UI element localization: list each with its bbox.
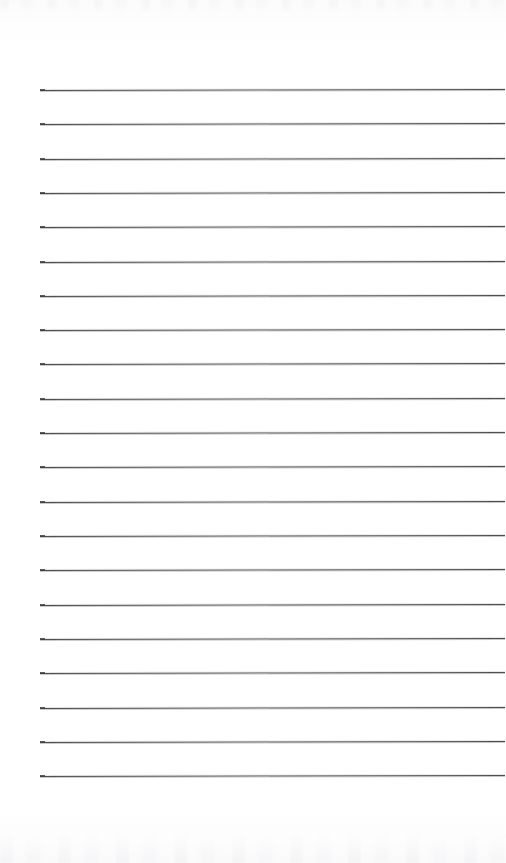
rule-line-left-cap (40, 123, 45, 125)
rule-line (40, 638, 505, 640)
rule-line-left-cap (40, 158, 45, 160)
rule-line (40, 261, 505, 263)
rule-line-left-cap (40, 501, 45, 503)
rule-line (40, 363, 505, 365)
rule-line-left-cap (40, 604, 45, 606)
rule-line (40, 158, 505, 160)
rule-line-left-cap (40, 192, 45, 194)
scanned-page (0, 0, 506, 863)
rule-line-left-cap (40, 638, 45, 640)
rule-line (40, 398, 505, 400)
rule-line-left-cap (40, 363, 45, 365)
rule-line-left-cap (40, 261, 45, 263)
rule-line-left-cap (40, 569, 45, 571)
rule-line-left-cap (40, 466, 45, 468)
rule-line (40, 501, 505, 503)
rule-line-left-cap (40, 432, 45, 434)
rule-line-left-cap (40, 329, 45, 331)
rule-line (40, 707, 505, 709)
rule-line-left-cap (40, 775, 45, 777)
rule-line-left-cap (40, 672, 45, 674)
rule-line (40, 192, 505, 194)
rule-line (40, 226, 505, 228)
rule-line-left-cap (40, 89, 45, 91)
rule-line (40, 295, 505, 297)
rule-line (40, 775, 505, 777)
rule-line-left-cap (40, 707, 45, 709)
rule-line-left-cap (40, 398, 45, 400)
rule-line (40, 466, 505, 468)
rule-line (40, 569, 505, 571)
ruled-lines-group (0, 0, 506, 863)
rule-line (40, 432, 505, 434)
rule-line-left-cap (40, 295, 45, 297)
rule-line (40, 89, 505, 91)
rule-line-left-cap (40, 535, 45, 537)
rule-line-left-cap (40, 741, 45, 743)
rule-line (40, 329, 505, 331)
rule-line-left-cap (40, 226, 45, 228)
rule-line (40, 123, 505, 125)
rule-line (40, 741, 505, 743)
rule-line (40, 604, 505, 606)
rule-line (40, 672, 505, 674)
rule-line (40, 535, 505, 537)
